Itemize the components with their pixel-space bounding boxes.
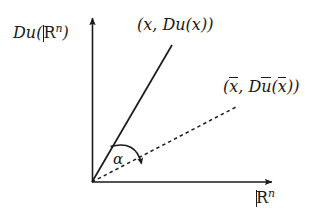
solid-label-comma: , bbox=[152, 15, 157, 34]
dashed-ray-label: (x, Du(x)) bbox=[223, 79, 299, 95]
solid-ray-line bbox=[92, 45, 172, 182]
solid-label-close: ) bbox=[207, 15, 213, 34]
dashed-label-comma: , bbox=[238, 77, 243, 96]
vertical-axis-label-prefix: Du( bbox=[13, 23, 42, 42]
solid-label-fn: Du( bbox=[162, 15, 191, 34]
blackboard-r-icon: R bbox=[255, 188, 268, 207]
blackboard-r-icon: R bbox=[42, 23, 55, 42]
vertical-axis-label-suffix: ) bbox=[62, 23, 68, 42]
angle-label-alpha: α bbox=[113, 152, 123, 167]
dashed-label-fn-arg: x bbox=[278, 79, 287, 95]
dashed-label-close: ) bbox=[293, 77, 299, 96]
dashed-label-arg: x bbox=[229, 79, 238, 95]
dashed-label-fn-u: u bbox=[261, 79, 271, 95]
solid-ray-label: (x, Du(x)) bbox=[137, 17, 213, 33]
vertical-axis-label: Du(Rn) bbox=[13, 25, 69, 41]
solid-label-arg: x bbox=[143, 15, 152, 34]
horizontal-axis-label-superscript: n bbox=[268, 187, 275, 200]
solid-label-fn-arg: x bbox=[192, 15, 201, 34]
math-diagram-figure: Du(Rn) (x, Du(x)) (x, Du(x)) Rn α bbox=[0, 0, 328, 218]
dashed-label-fn-d: D bbox=[248, 77, 261, 96]
horizontal-axis-label: Rn bbox=[255, 190, 275, 206]
